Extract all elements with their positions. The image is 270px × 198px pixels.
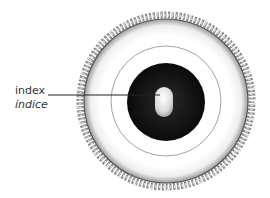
index-label: index <box>15 85 45 97</box>
index-translation-label: índice <box>15 99 48 111</box>
index-pill <box>155 87 173 117</box>
